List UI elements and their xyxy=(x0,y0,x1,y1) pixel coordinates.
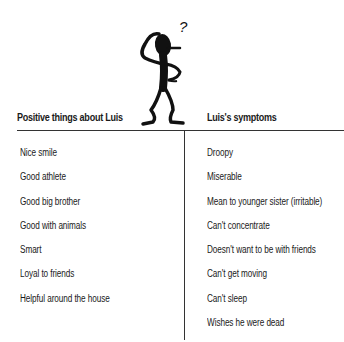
symptoms-list: Droopy Miserable Mean to younger sister … xyxy=(207,147,344,341)
horizontal-divider xyxy=(17,130,344,131)
list-item: Smart xyxy=(20,244,110,268)
list-item: Can't sleep xyxy=(207,293,322,317)
list-item: Loyal to friends xyxy=(20,268,110,292)
list-item: Can't concentrate xyxy=(207,220,322,244)
confused-stick-figure-icon: ? xyxy=(135,10,205,130)
list-item: Droopy xyxy=(207,147,322,171)
list-item: Can't get moving xyxy=(207,268,322,292)
list-item: Mean to younger sister (irritable) xyxy=(207,196,322,220)
list-item: Miserable xyxy=(207,171,322,195)
vertical-divider xyxy=(184,130,185,340)
list-item: Nice smile xyxy=(20,147,110,171)
question-mark-icon: ? xyxy=(179,18,188,35)
list-item: Doesn't want to be with friends xyxy=(207,244,322,268)
list-item: Helpful around the house xyxy=(20,293,110,317)
list-item: Good with animals xyxy=(20,220,110,244)
heading-positive-things: Positive things about Luis xyxy=(17,111,123,123)
list-item: Good athlete xyxy=(20,171,110,195)
positive-things-list: Nice smile Good athlete Good big brother… xyxy=(20,147,129,317)
list-item: Wishes he were dead xyxy=(207,317,322,341)
list-item: Good big brother xyxy=(20,196,110,220)
heading-symptoms: Luis's symptoms xyxy=(207,111,277,123)
